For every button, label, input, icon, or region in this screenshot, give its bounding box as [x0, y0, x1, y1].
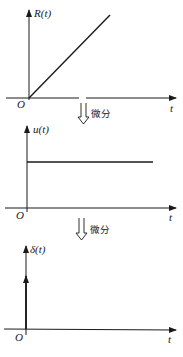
ramp-line — [29, 15, 110, 98]
origin-label: O — [16, 209, 24, 221]
derivative-arrow-2: 微分 — [76, 218, 110, 240]
panel-step: u(t) O t — [5, 123, 176, 223]
derivative-label: 微分 — [91, 108, 111, 119]
x-axis-label: t — [170, 102, 174, 114]
hollow-down-arrow-icon — [76, 218, 87, 240]
derivative-arrow-1: 微分 — [78, 103, 111, 124]
signal-derivation-diagram: R(t) O t 微分 u(t) O t 微分 δ(t) O t — [0, 0, 183, 357]
x-axis-label: t — [169, 211, 173, 223]
origin-label: O — [15, 331, 23, 343]
y-axis-label: u(t) — [33, 123, 49, 136]
y-axis-label: R(t) — [33, 7, 51, 20]
origin-label: O — [17, 98, 25, 110]
x-axis — [4, 329, 176, 330]
x-axis-label: t — [168, 333, 172, 345]
hollow-down-arrow-icon — [78, 103, 89, 124]
y-axis-label: δ(t) — [30, 243, 46, 256]
panel-impulse: δ(t) O t — [4, 243, 176, 345]
derivative-label: 微分 — [90, 224, 110, 235]
panel-ramp: R(t) O t — [6, 7, 176, 114]
